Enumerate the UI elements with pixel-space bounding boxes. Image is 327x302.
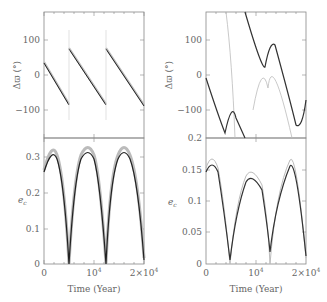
tick-label: 0: [196, 259, 202, 269]
tick-label: 0: [196, 70, 202, 80]
tick-label: 0.2: [188, 133, 202, 143]
tick-label: 0.1: [188, 196, 202, 206]
figure: 100 0 −100 0.3 0.2 0.1 0 Δϖ (°) ec 0 104…: [0, 0, 327, 302]
tick-label: 100: [23, 35, 40, 45]
x-tick-label: 104: [248, 266, 263, 278]
left-top-series: [44, 30, 144, 120]
x-axis-label: Time (Year): [68, 284, 121, 294]
tick-label: 0.05: [182, 227, 202, 237]
tick-label: 0.1: [26, 224, 40, 234]
x-axis-label: Time (Year): [230, 284, 283, 294]
tick-label: −100: [15, 105, 40, 115]
x-tick-label: 2×104: [292, 266, 321, 278]
tick-label: 0: [34, 70, 40, 80]
tick-label: 0.15: [182, 165, 202, 175]
x-tick-label: 0: [203, 268, 209, 278]
tick-label: −100: [177, 105, 202, 115]
tick-label: 100: [185, 35, 202, 45]
y-axis-label: Δϖ (°): [164, 61, 174, 89]
x-tick-label: 0: [41, 268, 47, 278]
tick-label: 0: [34, 259, 40, 269]
tick-label: 0.3: [26, 152, 41, 162]
y-axis-label: Δϖ (°): [12, 61, 22, 89]
x-tick-label: 104: [86, 266, 101, 278]
right-top-series: [206, 12, 306, 138]
tick-label: 0.2: [26, 188, 40, 198]
left-bottom-series: [44, 148, 144, 265]
y-axis-label: ec: [168, 197, 177, 208]
right-bottom-series: [206, 159, 306, 264]
x-tick-label: 2×104: [130, 266, 159, 278]
